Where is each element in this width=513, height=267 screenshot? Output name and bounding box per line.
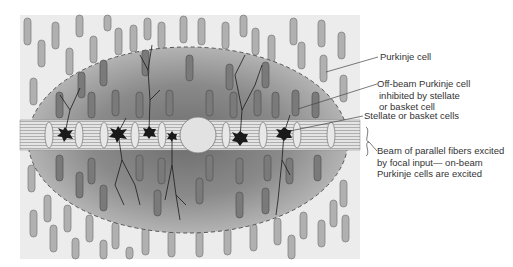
label-purkinje-cell: Purkinje cell (380, 51, 431, 63)
label-off-beam-line-2: inhibited by stellate (379, 90, 470, 102)
parallel-fiber-beam (20, 117, 360, 153)
label-beam-line-3: Purkinje cells are excited (377, 168, 504, 180)
label-parallel-fiber-beam: Beam of parallel fibers excited by focal… (377, 145, 504, 180)
label-stellate-basket: Stellate or basket cells (364, 110, 459, 122)
label-beam-line-2: by focal input— on-beam (377, 157, 504, 169)
focal-input-site (180, 117, 216, 153)
label-off-beam-purkinje: Off-beam Purkinje cell inhibited by stel… (377, 78, 470, 113)
label-beam-line-1: Beam of parallel fibers excited (377, 145, 504, 157)
label-off-beam-line-1: Off-beam Purkinje cell (377, 78, 470, 90)
diagram-figure (0, 0, 513, 267)
